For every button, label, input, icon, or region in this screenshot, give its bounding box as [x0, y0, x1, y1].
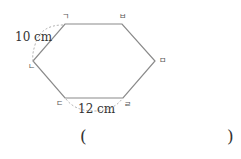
side-length-12cm: 12 cm [78, 103, 115, 115]
vertex-label-giyeok: ㄱ [62, 13, 69, 21]
vertex-label-bieup: ㅂ [119, 13, 126, 21]
side-length-10cm: 10 cm [15, 31, 52, 43]
vertex-label-mieum: ㅁ [159, 57, 166, 65]
hexagon-figure [0, 0, 241, 159]
answer-close-paren: ) [227, 128, 234, 145]
answer-open-paren: ( [80, 128, 87, 145]
vertex-label-digeut: ㄷ [56, 100, 63, 108]
vertex-label-rieul: ㄹ [124, 101, 131, 109]
vertex-label-nieun: ㄴ [28, 63, 35, 71]
